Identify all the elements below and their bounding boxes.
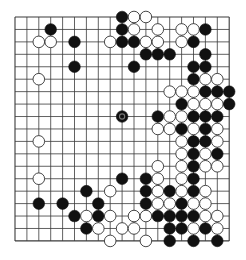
black-stone <box>116 24 128 36</box>
white-stone <box>212 136 224 148</box>
white-stone <box>128 11 140 23</box>
black-stone <box>188 173 200 185</box>
black-stone <box>81 223 93 235</box>
white-stone <box>33 73 45 85</box>
black-stone <box>200 223 212 235</box>
white-stone <box>188 198 200 210</box>
go-board-canvas[interactable] <box>0 0 246 260</box>
white-stone <box>200 198 212 210</box>
white-stone <box>212 160 224 172</box>
white-stone <box>164 111 176 123</box>
black-stone <box>176 123 188 135</box>
white-stone <box>176 160 188 172</box>
black-stone <box>116 173 128 185</box>
black-stone <box>223 98 235 110</box>
black-stone <box>200 111 212 123</box>
black-stone <box>57 198 69 210</box>
white-stone <box>93 223 105 235</box>
white-stone <box>128 24 140 36</box>
white-stone <box>81 210 93 222</box>
white-stone <box>116 223 128 235</box>
black-stone <box>223 86 235 98</box>
black-stone <box>212 148 224 160</box>
black-stone <box>116 11 128 23</box>
black-stone <box>188 61 200 73</box>
white-stone <box>176 136 188 148</box>
white-stone <box>176 24 188 36</box>
black-stone <box>116 111 128 123</box>
black-stone <box>164 210 176 222</box>
black-stone <box>188 36 200 48</box>
black-stone <box>69 61 81 73</box>
black-stone <box>188 160 200 172</box>
black-stone <box>176 210 188 222</box>
black-stone <box>164 185 176 197</box>
white-stone <box>188 223 200 235</box>
white-stone <box>200 98 212 110</box>
black-stone <box>188 111 200 123</box>
white-stone <box>33 36 45 48</box>
black-stone <box>128 61 140 73</box>
white-stone <box>164 198 176 210</box>
white-stone <box>200 185 212 197</box>
white-stone <box>200 210 212 222</box>
black-stone <box>188 73 200 85</box>
white-stone <box>188 86 200 98</box>
black-stone <box>164 49 176 61</box>
white-stone <box>212 73 224 85</box>
black-stone <box>200 61 212 73</box>
black-stone <box>152 49 164 61</box>
black-stone <box>212 111 224 123</box>
white-stone <box>128 210 140 222</box>
black-stone <box>116 36 128 48</box>
black-stone <box>45 24 57 36</box>
black-stone <box>200 49 212 61</box>
white-stone <box>104 235 116 247</box>
black-stone <box>200 123 212 135</box>
black-stone <box>128 36 140 48</box>
black-stone <box>212 86 224 98</box>
white-stone <box>164 86 176 98</box>
white-stone <box>176 173 188 185</box>
white-stone <box>212 123 224 135</box>
black-stone <box>212 235 224 247</box>
white-stone <box>176 111 188 123</box>
black-stone <box>176 98 188 110</box>
black-stone <box>152 111 164 123</box>
black-stone <box>200 136 212 148</box>
white-stone <box>188 123 200 135</box>
go-board[interactable] <box>0 0 246 260</box>
white-stone <box>188 98 200 110</box>
white-stone <box>140 210 152 222</box>
black-stone <box>188 148 200 160</box>
white-stone <box>140 36 152 48</box>
white-stone <box>200 73 212 85</box>
white-stone <box>152 36 164 48</box>
white-stone <box>164 123 176 135</box>
black-stone <box>140 49 152 61</box>
white-stone <box>212 98 224 110</box>
black-stone <box>200 24 212 36</box>
black-stone <box>140 173 152 185</box>
black-stone <box>81 185 93 197</box>
white-stone <box>152 24 164 36</box>
white-stone <box>176 36 188 48</box>
white-stone <box>212 223 224 235</box>
black-stone <box>69 36 81 48</box>
white-stone <box>152 123 164 135</box>
white-stone <box>200 160 212 172</box>
white-stone <box>104 185 116 197</box>
black-stone <box>93 198 105 210</box>
white-stone <box>104 210 116 222</box>
white-stone <box>140 11 152 23</box>
white-stone <box>104 36 116 48</box>
black-stone <box>93 210 105 222</box>
black-stone <box>164 235 176 247</box>
white-stone <box>140 235 152 247</box>
black-stone <box>176 223 188 235</box>
black-stone <box>152 210 164 222</box>
black-stone <box>200 86 212 98</box>
white-stone <box>152 185 164 197</box>
white-stone <box>176 148 188 160</box>
white-stone <box>152 160 164 172</box>
